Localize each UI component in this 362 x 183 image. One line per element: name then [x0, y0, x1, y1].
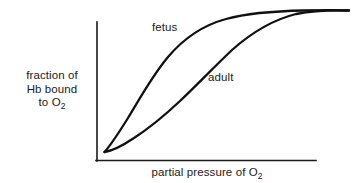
y-axis-label-line-3: to O2	[14, 96, 90, 113]
y-axis-label-line-1: fraction of	[14, 69, 90, 83]
adult-curve-label: adult	[208, 71, 233, 85]
y-axis-label-line-3-text: to O	[39, 96, 61, 108]
y-axis-label-subscript: 2	[61, 101, 66, 111]
x-axis-label-text: partial pressure of O	[151, 166, 257, 178]
y-axis-label-line-2: Hb bound	[14, 83, 90, 97]
oxygen-dissociation-curve-figure: fraction of Hb bound to O2 partial press…	[0, 0, 362, 183]
fetus-curve-label: fetus	[152, 21, 177, 35]
y-axis-label: fraction of Hb bound to O2	[14, 69, 90, 113]
x-axis-label-subscript: 2	[258, 171, 263, 181]
x-axis-label: partial pressure of O2	[96, 166, 318, 183]
